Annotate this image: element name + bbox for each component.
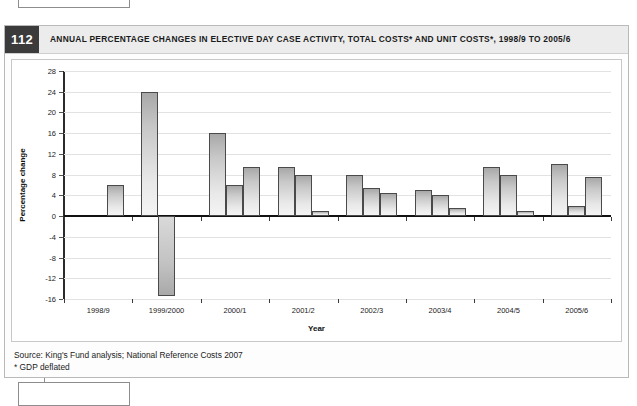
y-axis-tick — [59, 258, 63, 259]
source-text: Source: King's Fund analysis; National R… — [14, 349, 628, 361]
bar — [415, 190, 432, 216]
x-axis-tick-label: 2004/5 — [497, 306, 520, 315]
x-axis-tick-zero — [611, 217, 612, 221]
y-axis-tick-label: -12 — [45, 274, 56, 283]
y-axis-tick-label: 8 — [52, 170, 56, 179]
bar — [312, 211, 329, 216]
figure-header: 112 ANNUAL PERCENTAGE CHANGES IN ELECTIV… — [5, 26, 628, 54]
x-axis-tick-zero — [474, 217, 475, 221]
bar — [346, 175, 363, 216]
x-axis-tick-zero — [201, 217, 202, 221]
figure-container: 112 ANNUAL PERCENTAGE CHANGES IN ELECTIV… — [4, 25, 629, 378]
y-axis-tick — [59, 237, 63, 238]
y-axis-tick — [59, 175, 63, 176]
y-axis-tick — [59, 216, 63, 217]
y-axis-tick — [59, 278, 63, 279]
y-axis-tick-label: 0 — [52, 212, 56, 221]
page-element-below — [18, 382, 130, 406]
bar — [432, 195, 449, 216]
y-axis-tick — [59, 299, 63, 300]
bar — [295, 175, 312, 216]
y-axis-tick-label: 16 — [48, 129, 56, 138]
y-axis-title: Percentage change — [18, 148, 27, 221]
bar — [141, 92, 158, 216]
footnote-text: * GDP deflated — [14, 361, 628, 373]
y-axis-tick-label: -4 — [49, 232, 56, 241]
x-axis-tick — [611, 299, 612, 303]
grid-line — [64, 278, 611, 279]
bar — [243, 167, 260, 216]
x-axis-tick-zero — [269, 217, 270, 221]
x-axis-tick-zero — [64, 217, 65, 221]
x-axis-tick-label: 2001/2 — [292, 306, 315, 315]
y-axis-line — [63, 71, 65, 299]
bar — [209, 133, 226, 216]
bar — [568, 206, 585, 216]
grid-line — [64, 258, 611, 259]
y-axis-tick-label: 20 — [48, 108, 56, 117]
figure-title: ANNUAL PERCENTAGE CHANGES IN ELECTIVE DA… — [39, 26, 628, 53]
page-element-above — [18, 0, 130, 8]
x-axis-tick-label: 2003/4 — [429, 306, 452, 315]
x-axis-tick — [543, 299, 544, 303]
y-axis-tick — [59, 71, 63, 72]
y-axis-tick-label: 4 — [52, 191, 56, 200]
x-axis-tick-label: 1999/2000 — [149, 306, 184, 315]
bar — [585, 177, 602, 216]
chart-panel: Percentage change 2824201612840-4-8-12-1… — [11, 59, 622, 342]
x-axis-tick — [132, 299, 133, 303]
figure-number-badge: 112 — [5, 26, 39, 53]
y-axis-tick-label: 24 — [48, 87, 56, 96]
y-axis-tick — [59, 195, 63, 196]
bar — [500, 175, 517, 216]
x-axis-tick-zero — [406, 217, 407, 221]
plot-area: 2824201612840-4-8-12-161998/91999/200020… — [64, 71, 611, 299]
grid-line — [64, 71, 611, 72]
bar — [517, 211, 534, 216]
x-axis-tick — [406, 299, 407, 303]
y-axis-tick-label: -16 — [45, 295, 56, 304]
x-axis-tick-label: 2002/3 — [360, 306, 383, 315]
grid-line — [64, 237, 611, 238]
bar — [363, 188, 380, 217]
x-axis-tick-zero — [338, 217, 339, 221]
x-axis-tick-label: 2005/6 — [565, 306, 588, 315]
y-axis-tick-label: 28 — [48, 67, 56, 76]
x-axis-tick — [474, 299, 475, 303]
bar — [483, 167, 500, 216]
bar — [226, 185, 243, 216]
x-axis-tick — [338, 299, 339, 303]
y-axis-tick — [59, 133, 63, 134]
x-axis-tick-label: 1998/9 — [87, 306, 110, 315]
x-axis-tick — [64, 299, 65, 303]
bar — [158, 216, 175, 296]
bar — [449, 208, 466, 216]
x-axis-tick-label: 2000/1 — [223, 306, 246, 315]
bar — [380, 193, 397, 216]
y-axis-tick-label: 12 — [48, 149, 56, 158]
x-axis-tick-zero — [132, 217, 133, 221]
y-axis-tick — [59, 154, 63, 155]
bar — [278, 167, 295, 216]
y-axis-tick — [59, 112, 63, 113]
y-axis-tick — [59, 92, 63, 93]
x-axis-tick — [201, 299, 202, 303]
bar — [107, 185, 124, 216]
bar — [551, 164, 568, 216]
y-axis-tick-label: -8 — [49, 253, 56, 262]
x-axis-tick — [269, 299, 270, 303]
x-axis-title: Year — [308, 324, 325, 333]
x-axis-tick-zero — [543, 217, 544, 221]
x-axis-title-wrap: Year — [12, 324, 621, 333]
figure-footer: Source: King's Fund analysis; National R… — [5, 343, 628, 377]
